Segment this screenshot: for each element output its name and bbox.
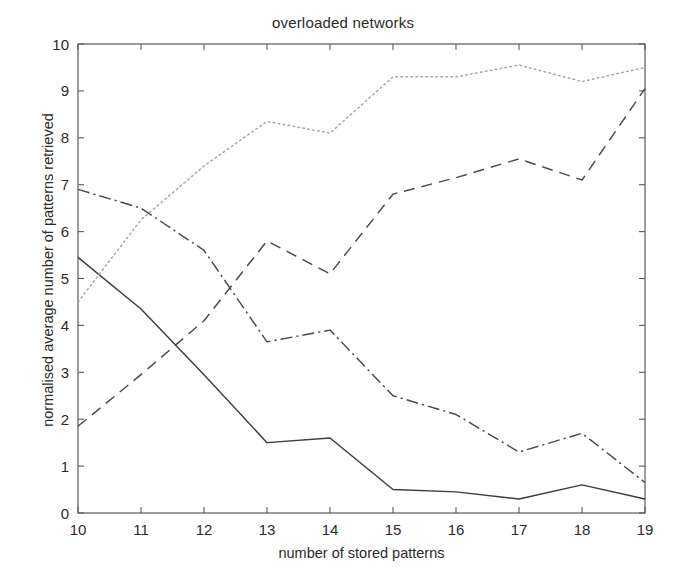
y-tick-label: 9 bbox=[61, 82, 69, 99]
y-tick-label: 7 bbox=[61, 176, 69, 193]
y-tick-label: 8 bbox=[61, 129, 69, 146]
series-line-dashed bbox=[78, 89, 645, 427]
y-tick-label: 6 bbox=[61, 223, 69, 240]
x-tick-label: 13 bbox=[259, 521, 276, 538]
x-tick-label: 11 bbox=[133, 521, 149, 538]
axis-frame bbox=[78, 44, 645, 513]
x-tick-label: 17 bbox=[511, 521, 528, 538]
plot-area: 10111213141516171819 012345678910 bbox=[0, 0, 686, 583]
y-tick-label: 0 bbox=[61, 505, 69, 522]
x-tick-label: 15 bbox=[385, 521, 402, 538]
y-tick-label: 4 bbox=[61, 317, 69, 334]
x-axis-tick-labels: 10111213141516171819 bbox=[70, 521, 654, 538]
y-tick-label: 5 bbox=[61, 270, 69, 287]
series-line-solid bbox=[78, 257, 645, 499]
x-tick-label: 18 bbox=[574, 521, 591, 538]
x-tick-label: 12 bbox=[196, 521, 213, 538]
y-tick-label: 1 bbox=[61, 458, 69, 475]
y-axis-tick-labels: 012345678910 bbox=[52, 36, 69, 522]
series-line-dotted bbox=[78, 65, 645, 302]
y-tick-label: 3 bbox=[61, 364, 69, 381]
x-tick-label: 16 bbox=[448, 521, 465, 538]
x-tick-label: 14 bbox=[322, 521, 339, 538]
figure-canvas: overloaded networks normalised average n… bbox=[0, 0, 686, 583]
x-tick-label: 19 bbox=[637, 521, 654, 538]
x-tick-label: 10 bbox=[70, 521, 87, 538]
y-axis-ticks bbox=[78, 44, 645, 513]
axis-box bbox=[78, 44, 645, 513]
x-axis-ticks bbox=[78, 44, 645, 513]
y-tick-label: 10 bbox=[52, 36, 69, 53]
data-series-group bbox=[78, 65, 645, 499]
y-tick-label: 2 bbox=[61, 411, 69, 428]
